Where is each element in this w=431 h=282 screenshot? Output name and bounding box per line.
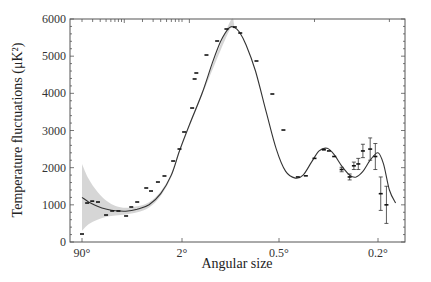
data-point [361, 144, 365, 157]
data-points-layer [80, 27, 388, 234]
y-tick-label: 2000 [42, 161, 66, 175]
y-tick-label: 0 [60, 235, 66, 249]
data-point [352, 162, 356, 169]
x-tick-label: 90° [74, 246, 91, 260]
x-ticks: 90°2°0.5°0.2° [74, 19, 390, 260]
data-point [373, 144, 377, 170]
y-tick-label: 1000 [42, 198, 66, 212]
model-curve-layer [82, 26, 396, 211]
x-axis-title: Angular size [201, 256, 272, 271]
model-curve [82, 26, 396, 211]
data-point [384, 186, 388, 223]
y-tick-label: 4000 [42, 86, 66, 100]
cmb-power-spectrum-chart: 90°2°0.5°0.2° 0100020003000400050006000 … [0, 0, 431, 282]
y-tick-label: 3000 [42, 124, 66, 138]
uncertainty-band [82, 18, 234, 230]
y-tick-label: 6000 [42, 12, 66, 26]
x-tick-label: 0.2° [368, 246, 388, 260]
y-axis-title: Temperature fluctuations (μK²) [10, 42, 26, 217]
data-point [379, 177, 383, 210]
y-tick-label: 5000 [42, 49, 66, 63]
data-point [348, 174, 352, 180]
x-tick-label: 2° [177, 246, 188, 260]
uncertainty-band-layer [82, 18, 234, 230]
data-point [368, 138, 372, 160]
data-point [356, 158, 360, 169]
